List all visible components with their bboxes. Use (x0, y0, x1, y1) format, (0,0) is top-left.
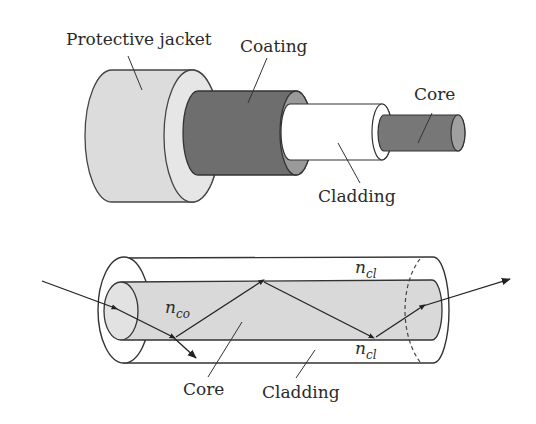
layered-fiber-illustration: Protective jacket Coating Core Cladding (66, 29, 465, 206)
core-label-top: Core (414, 84, 455, 104)
core-layer (378, 115, 465, 151)
cladding-label-top: Cladding (318, 186, 396, 206)
core-label-bottom: Core (183, 379, 224, 399)
light-propagation-illustration: nco ncl ncl Core Cladding (42, 257, 510, 402)
cladding-layer (281, 104, 392, 160)
fiber-diagram-figure: Protective jacket Coating Core Cladding (0, 0, 536, 424)
coating-label: Coating (240, 36, 308, 56)
protective-jacket-label: Protective jacket (66, 29, 212, 49)
core-tube (104, 280, 442, 340)
cladding-label-bottom: Cladding (262, 382, 340, 402)
